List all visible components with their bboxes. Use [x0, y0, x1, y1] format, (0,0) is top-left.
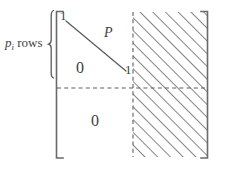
rows-count-label: pirows: [5, 36, 42, 52]
rows-brace: [49, 11, 54, 79]
matrix-drawing: [0, 0, 226, 171]
permutation-diagonal: [66, 21, 126, 71]
zero-lower-block-label: 0: [91, 113, 99, 129]
top-left-one-label: 1: [60, 9, 67, 22]
zero-upper-block-label: 0: [76, 60, 84, 76]
diagonal-end-one-label: 1: [125, 63, 132, 76]
hatched-region: [133, 12, 207, 157]
permutation-block-label: P: [104, 26, 113, 40]
rows-label-subscript: i: [12, 42, 15, 52]
block-matrix-figure: pirows 1 P 1 0 0: [0, 0, 226, 171]
rows-label-word: rows: [17, 35, 42, 50]
